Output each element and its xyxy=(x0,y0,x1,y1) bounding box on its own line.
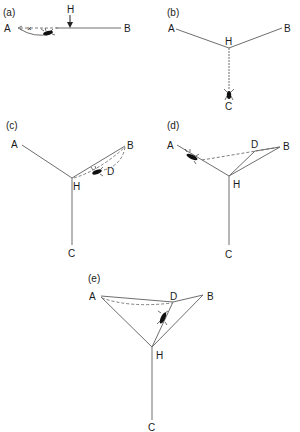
node-c-label: C xyxy=(225,101,232,112)
cross-mark: × xyxy=(27,24,32,33)
node-b-label: B xyxy=(207,291,214,302)
panel-d-label: (d) xyxy=(167,120,179,131)
thread-h-b xyxy=(229,28,282,48)
panel-c: (c) A B H D C xyxy=(6,120,134,259)
node-a-label: A xyxy=(4,23,11,34)
thread-a-h xyxy=(176,29,229,48)
node-a-label: A xyxy=(168,23,175,34)
node-d-label: D xyxy=(170,291,177,302)
node-b-label: B xyxy=(124,23,131,34)
node-b-label: B xyxy=(284,23,291,34)
node-h-label: H xyxy=(225,36,232,47)
node-b-label: B xyxy=(127,140,134,151)
node-a-label: A xyxy=(167,140,174,151)
thread-a-h xyxy=(22,145,72,178)
panel-c-label: (c) xyxy=(6,120,18,131)
node-d-label: D xyxy=(251,139,258,150)
panel-a: (a) A B H × xyxy=(3,4,131,36)
panel-e: (e) A D B H C xyxy=(88,273,214,432)
panel-b-label: (b) xyxy=(167,7,179,18)
panel-a-label: (a) xyxy=(3,7,15,18)
thread-a-h xyxy=(177,145,229,176)
panel-b: (b) A B H C xyxy=(167,7,291,112)
node-h-label: H xyxy=(73,181,80,192)
panel-e-label: (e) xyxy=(88,273,100,284)
node-c-label: C xyxy=(68,248,75,259)
node-h-label: H xyxy=(233,179,240,190)
thread-a-h xyxy=(101,297,152,347)
panel-d: (d) A B D H C xyxy=(167,120,290,260)
h-arrow-head-icon xyxy=(67,22,73,28)
node-c-label: C xyxy=(148,422,155,432)
node-h-label: H xyxy=(156,350,163,361)
spider-icon xyxy=(224,89,234,100)
node-a-label: A xyxy=(11,139,18,150)
thread-d-h xyxy=(152,302,173,347)
thread-d-b xyxy=(173,295,203,302)
spider-web-construction-diagram: (a) A B H × (b) A B H C xyxy=(0,0,300,432)
node-b-label: B xyxy=(283,141,290,152)
spider-icon xyxy=(157,311,168,325)
node-a-label: A xyxy=(89,291,96,302)
node-c-label: C xyxy=(225,249,232,260)
node-h-label: H xyxy=(67,4,74,15)
